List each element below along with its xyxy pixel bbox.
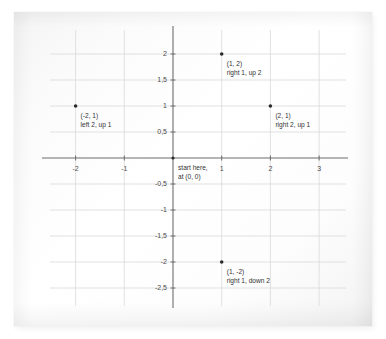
x-tick-label: 3: [317, 165, 321, 173]
y-tick-label: -0,5: [155, 180, 167, 188]
y-tick-label: 0,5: [157, 128, 167, 136]
data-point: [220, 260, 224, 264]
y-tick-label: -1,5: [155, 232, 167, 240]
x-tick-label: 1: [220, 165, 224, 173]
point-annotation: (1, 2)right 1, up 2: [227, 59, 262, 77]
point-coordinate-label: (1, -2): [227, 267, 270, 276]
point-movement-label: right 1, down 2: [227, 276, 270, 285]
y-tick-label: 1,5: [157, 76, 167, 84]
point-coordinate-label: (1, 2): [227, 59, 262, 68]
origin-annotation-line2: at (0, 0): [178, 172, 208, 181]
origin-point: [171, 156, 174, 159]
point-annotation: (-2, 1)left 2, up 1: [81, 111, 112, 129]
y-tick-label: -2: [161, 258, 167, 266]
x-tick-label: -1: [121, 165, 127, 173]
coordinate-plane-chart: -2-1123 21,510,5-0,5-1-1,5-2-2,5 (1, 2)r…: [0, 0, 386, 339]
origin-annotation-line1: start here,: [178, 163, 208, 172]
point-annotation: (1, -2)right 1, down 2: [227, 267, 270, 285]
point-movement-label: right 1, up 2: [227, 68, 262, 77]
x-tick-label: -2: [72, 165, 78, 173]
point-coordinate-label: (-2, 1): [81, 111, 112, 120]
data-point: [74, 104, 78, 108]
point-annotation: (2, 1)right 2, up 1: [275, 111, 310, 129]
point-movement-label: left 2, up 1: [81, 120, 112, 129]
y-tick-label: -1: [161, 206, 167, 214]
screenshot-root: -2-1123 21,510,5-0,5-1-1,5-2-2,5 (1, 2)r…: [0, 0, 386, 339]
y-tick-label: -2,5: [155, 284, 167, 292]
origin-annotation: start here, at (0, 0): [178, 163, 208, 181]
data-point: [220, 52, 224, 56]
point-coordinate-label: (2, 1): [275, 111, 310, 120]
x-tick-label: 2: [268, 165, 272, 173]
y-tick-label: 1: [163, 102, 167, 110]
point-movement-label: right 2, up 1: [275, 120, 310, 129]
y-tick-label: 2: [163, 50, 167, 58]
data-point: [269, 104, 273, 108]
